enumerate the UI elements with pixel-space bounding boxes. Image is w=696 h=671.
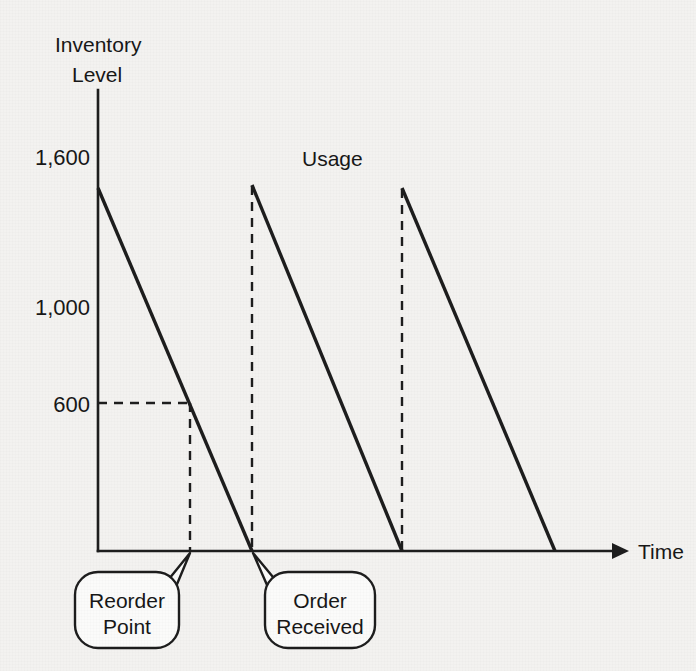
order-received-callout-line1: Order <box>293 589 347 612</box>
callout-order-received: Order Received <box>253 553 375 648</box>
usage-line-cycle-3 <box>402 188 555 551</box>
inventory-level-chart: Inventory Level Time 1,600 1,000 600 Usa… <box>0 0 696 671</box>
chart-canvas: Inventory Level Time 1,600 1,000 600 Usa… <box>0 0 696 671</box>
y-tick-label-1600: 1,600 <box>35 145 90 170</box>
reorder-point-callout-line2: Point <box>103 615 151 638</box>
usage-line-cycle-2 <box>252 185 402 551</box>
callout-reorder-point: Reorder Point <box>75 553 190 648</box>
x-axis-title: Time <box>638 540 684 563</box>
y-tick-label-1000: 1,000 <box>35 295 90 320</box>
usage-line-cycle-1 <box>98 188 252 551</box>
usage-series-label: Usage <box>302 147 363 170</box>
x-axis-arrow-icon <box>612 543 629 559</box>
y-axis-title: Inventory Level <box>55 33 142 86</box>
reorder-point-callout-line1: Reorder <box>89 589 165 612</box>
y-tick-label-600: 600 <box>53 392 90 417</box>
order-received-callout-line2: Received <box>276 615 364 638</box>
y-axis-title-line1: Inventory <box>55 33 142 56</box>
y-axis-title-line2: Level <box>72 63 122 86</box>
